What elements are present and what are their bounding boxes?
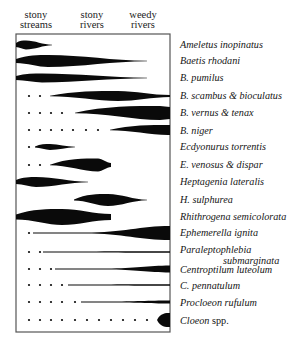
presence-dot xyxy=(39,129,41,131)
distribution-band xyxy=(68,284,170,285)
species-label: B. scambus & bioculatus xyxy=(180,90,282,101)
distribution-band xyxy=(16,177,88,187)
presence-dot xyxy=(61,301,63,303)
presence-dot xyxy=(85,129,87,131)
presence-dot xyxy=(72,129,74,131)
species-name: Centroptilum luteolum xyxy=(180,264,272,275)
distribution-band xyxy=(74,194,147,206)
species-name: B. vernus & tenax xyxy=(180,107,254,118)
species-name: Paraleptophlebia xyxy=(180,244,251,255)
distribution-band xyxy=(81,301,170,304)
species-name: E. venosus & dispar xyxy=(180,159,263,170)
distribution-band xyxy=(75,106,170,120)
species-suffix: spp. xyxy=(209,315,228,326)
presence-dot xyxy=(39,319,41,321)
distribution-band xyxy=(43,251,170,252)
presence-dot xyxy=(39,112,41,114)
presence-dot xyxy=(134,319,136,321)
presence-dot xyxy=(39,164,41,166)
presence-dot xyxy=(98,319,100,321)
species-label: Cloeon spp. xyxy=(180,315,229,326)
presence-dot xyxy=(28,268,30,270)
species-label: B. pumilus xyxy=(180,72,224,83)
species-name: Procloeon rufulum xyxy=(180,297,257,308)
species-name: Ameletus inopinatus xyxy=(180,39,263,50)
presence-dot xyxy=(61,129,63,131)
species-label: H. sulphurea xyxy=(180,194,233,205)
species-label: Ecdyonurus torrentis xyxy=(180,141,266,152)
presence-dot xyxy=(28,95,30,97)
distribution-band xyxy=(55,266,170,273)
species-name: Ecdyonurus torrentis xyxy=(180,141,266,152)
presence-dot xyxy=(86,319,88,321)
header-stony-streams: stony streams xyxy=(6,10,66,30)
species-name: B. pumilus xyxy=(180,72,224,83)
species-name: B. scambus & bioculatus xyxy=(180,90,282,101)
distribution-band xyxy=(16,55,147,67)
distribution-band xyxy=(50,159,111,172)
presence-dot xyxy=(28,129,30,131)
presence-dot xyxy=(74,319,76,321)
presence-dot xyxy=(28,319,30,321)
presence-dot xyxy=(39,284,41,286)
distribution-band xyxy=(16,209,111,225)
header-weedy-rivers: weedy rivers xyxy=(113,10,173,30)
presence-dot xyxy=(50,268,52,270)
presence-dot xyxy=(39,95,41,97)
species-name: Rhithrogena semicolorata xyxy=(180,211,286,222)
distribution-bands xyxy=(16,41,170,328)
species-label: B. niger xyxy=(180,125,213,136)
species-label: Paraleptophlebiasubmarginata xyxy=(180,244,279,266)
species-name: C. pennatulum xyxy=(180,280,240,291)
distribution-band xyxy=(157,313,170,327)
presence-dot xyxy=(50,112,52,114)
distribution-band xyxy=(16,41,52,50)
header-line-2: rivers xyxy=(113,20,173,30)
presence-dot xyxy=(61,319,63,321)
species-label: Procloeon rufulum xyxy=(180,297,257,308)
species-name: Baetis rhodani xyxy=(180,55,240,66)
distribution-band xyxy=(33,226,170,240)
presence-dot xyxy=(61,284,63,286)
species-label: C. pennatulum xyxy=(180,280,240,291)
presence-dot xyxy=(146,319,148,321)
distribution-band xyxy=(16,74,147,83)
presence-dot xyxy=(50,284,52,286)
species-label: E. venosus & dispar xyxy=(180,159,263,170)
presence-dot xyxy=(28,284,30,286)
presence-dot xyxy=(28,164,30,166)
presence-dot xyxy=(39,251,41,253)
species-name: Ephemerella ignita xyxy=(180,227,258,238)
presence-dot xyxy=(50,129,52,131)
presence-dot xyxy=(97,129,99,131)
distribution-band xyxy=(50,91,170,101)
distribution-band xyxy=(35,144,75,150)
presence-dot xyxy=(122,319,124,321)
presence-dot xyxy=(61,112,63,114)
species-name: Cloeon xyxy=(180,315,209,326)
species-name: Heptagenia lateralis xyxy=(180,176,264,187)
presence-dot xyxy=(50,319,52,321)
presence-dot xyxy=(39,301,41,303)
presence-dot xyxy=(74,301,76,303)
species-label: Baetis rhodani xyxy=(180,55,240,66)
presence-dot xyxy=(28,232,30,234)
presence-dot xyxy=(28,301,30,303)
presence-dot xyxy=(50,301,52,303)
presence-dot xyxy=(28,251,30,253)
species-name: H. sulphurea xyxy=(180,194,233,205)
distribution-band xyxy=(110,125,170,135)
species-label: Centroptilum luteolum xyxy=(180,264,272,275)
presence-dot xyxy=(28,146,30,148)
species-label: Heptagenia lateralis xyxy=(180,176,264,187)
header-line-2: streams xyxy=(6,20,66,30)
species-label: B. vernus & tenax xyxy=(180,107,254,118)
presence-dot xyxy=(110,319,112,321)
species-label: Ephemerella ignita xyxy=(180,227,258,238)
species-name: B. niger xyxy=(180,125,213,136)
habitat-distribution-diagram xyxy=(0,0,307,342)
presence-dot xyxy=(39,268,41,270)
species-label: Ameletus inopinatus xyxy=(180,39,263,50)
presence-dot xyxy=(28,112,30,114)
species-label: Rhithrogena semicolorata xyxy=(180,211,286,222)
